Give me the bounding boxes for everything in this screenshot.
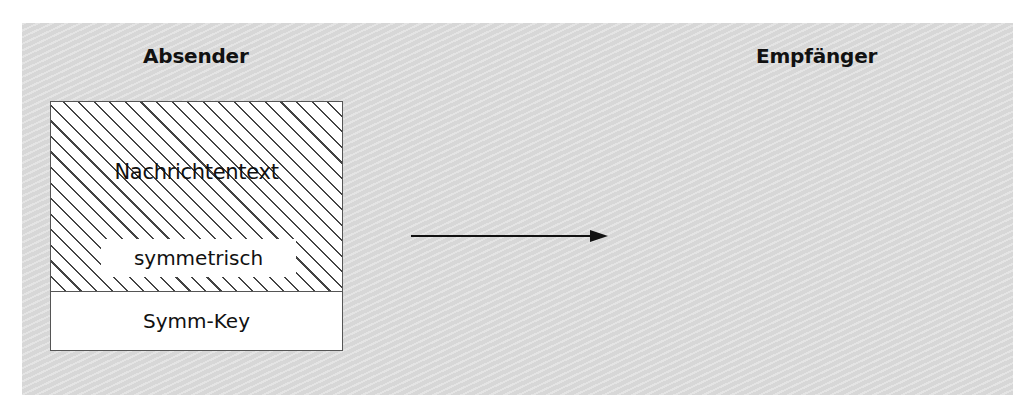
arrow-right-icon [410,228,610,244]
encrypted-message-box: Nachrichtentext symmetrisch Symm-Key [50,101,343,351]
encryption-type-label: symmetrisch [101,239,296,277]
encrypted-area: Nachrichtentext symmetrisch [51,102,342,292]
sender-heading: Absender [143,44,249,68]
message-text-label: Nachrichtentext [51,160,342,184]
symmetric-key-label: Symm-Key [51,292,342,350]
receiver-heading: Empfänger [756,44,877,68]
